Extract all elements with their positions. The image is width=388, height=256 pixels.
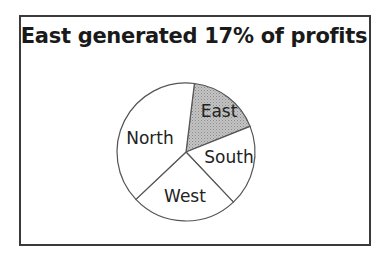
slice-label-east: East: [201, 101, 238, 121]
slice-label-south: South: [204, 147, 253, 167]
pie-chart: East South West North: [0, 0, 388, 256]
slice-label-north: North: [126, 128, 174, 148]
slice-label-west: West: [164, 186, 206, 206]
